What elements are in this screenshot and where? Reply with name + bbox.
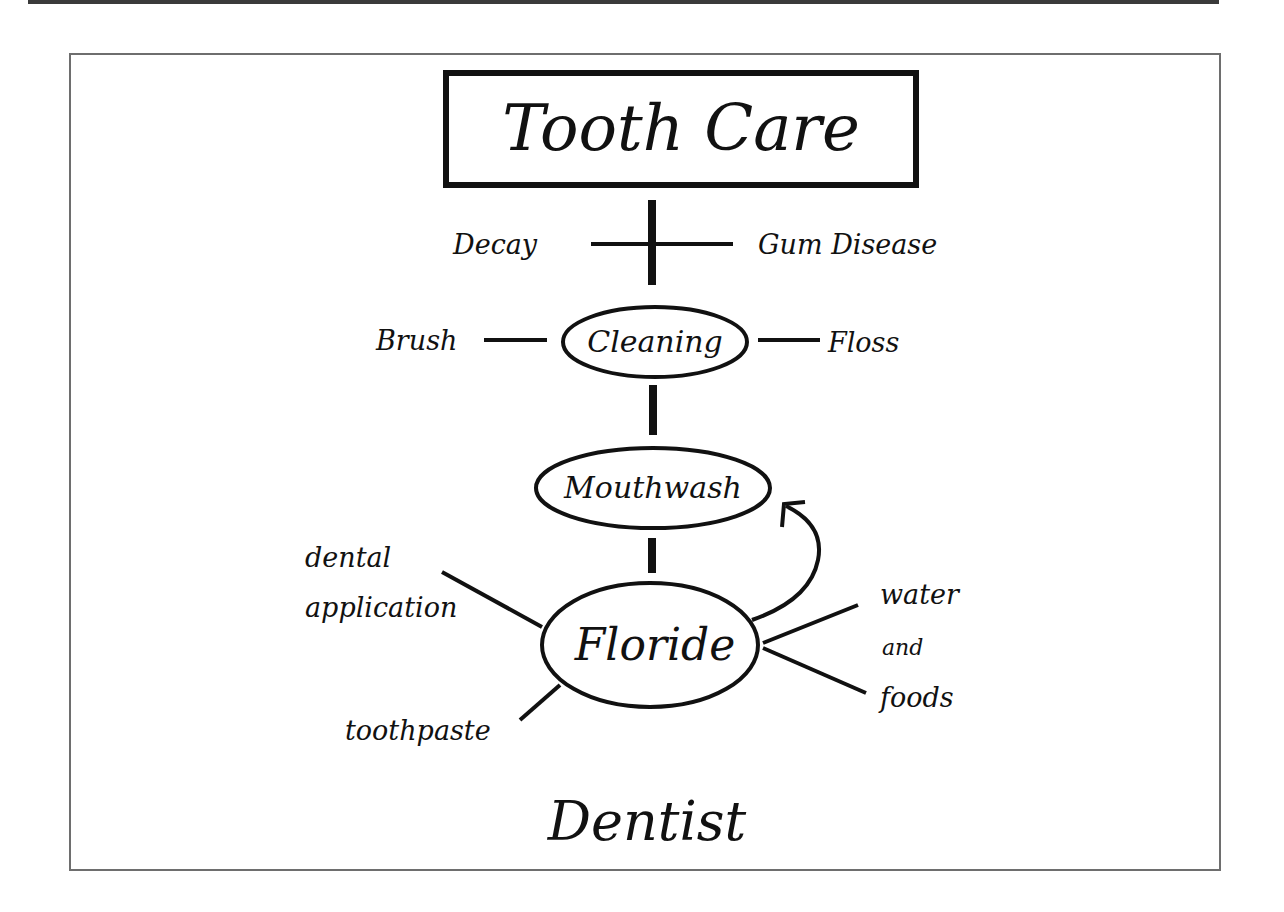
title-text: Tooth Care <box>502 91 860 165</box>
toothpaste-connector <box>520 685 560 720</box>
curved-arrow-path <box>752 506 819 620</box>
label-brush: Brush <box>375 325 457 356</box>
label-dental: dental <box>305 542 391 573</box>
mouthwash-label: Mouthwash <box>563 470 742 505</box>
floride-to-mouthwash-arrow <box>752 502 819 620</box>
node-mouthwash: Mouthwash <box>536 448 770 528</box>
title-box: Tooth Care <box>446 73 916 185</box>
foods-connector <box>763 648 866 693</box>
node-floride: Floride dental application toothpaste wa… <box>305 542 961 746</box>
problem-cross: Decay Gum Disease <box>452 200 937 285</box>
label-and: and <box>882 635 923 660</box>
cleaning-label: Cleaning <box>587 324 723 359</box>
node-cleaning: Cleaning Brush Floss <box>375 307 899 377</box>
tooth-care-concept-map: Tooth Care Decay Gum Disease Cleaning Br… <box>0 0 1284 912</box>
label-decay: Decay <box>452 229 538 260</box>
label-water: water <box>880 579 961 610</box>
floride-label: Floride <box>574 619 735 670</box>
label-floss: Floss <box>827 327 899 358</box>
label-application: application <box>305 592 457 623</box>
footer-dentist: Dentist <box>547 790 747 853</box>
label-foods: foods <box>878 682 954 713</box>
label-toothpaste: toothpaste <box>345 715 491 746</box>
label-gum-disease: Gum Disease <box>758 229 937 260</box>
